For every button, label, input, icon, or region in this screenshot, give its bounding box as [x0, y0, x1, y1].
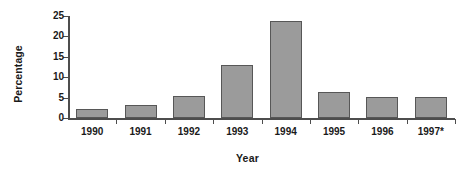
x-axis-tick-mark [165, 119, 166, 124]
y-axis-tick-label: 15 [42, 50, 64, 63]
y-axis-tick-label: 5 [42, 91, 64, 104]
y-axis-line [68, 16, 70, 119]
x-axis-tick-mark [116, 119, 117, 124]
bar [318, 92, 350, 118]
x-axis-title: Year [0, 152, 471, 164]
y-axis-tick-label: 20 [42, 29, 64, 42]
chart-figure: Percentage 0510152025 199019911992199319… [0, 0, 471, 179]
x-axis-tick-mark [358, 119, 359, 124]
bar [366, 97, 398, 118]
x-axis-tick-mark [407, 119, 408, 124]
x-axis-tick-label: 1997* [403, 126, 459, 137]
y-axis-tick-label: 0 [42, 111, 64, 124]
bar [221, 65, 253, 118]
bar [76, 109, 108, 118]
x-axis-tick-mark [455, 119, 456, 124]
y-axis-tick-label: 10 [42, 70, 64, 83]
y-axis-title: Percentage [11, 28, 25, 120]
y-axis-tick-label: 25 [42, 9, 64, 22]
bar [270, 21, 302, 119]
bar [415, 97, 447, 118]
x-axis-title-text: Year [236, 152, 259, 164]
plot-area: 0510152025 19901991199219931994199519961… [68, 16, 455, 119]
bar [173, 96, 205, 118]
x-axis-tick-mark [262, 119, 263, 124]
x-axis-tick-mark [213, 119, 214, 124]
bar [125, 105, 157, 118]
x-axis-tick-mark [310, 119, 311, 124]
